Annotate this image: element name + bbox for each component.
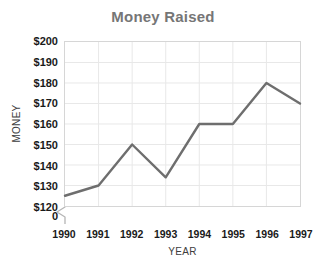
data-series-line — [65, 42, 300, 206]
x-axis-tick-labels: 19901991199219931994199519961997 — [64, 228, 301, 244]
y-tick-label: $130 — [0, 180, 58, 192]
y-tick-label: $180 — [0, 77, 58, 89]
y-tick-label: $160 — [0, 118, 58, 130]
y-axis-zero-label: 0 — [0, 210, 58, 222]
plot-area — [64, 41, 301, 207]
y-tick-label: $150 — [0, 139, 58, 151]
y-tick-label: $140 — [0, 160, 58, 172]
y-tick-label: $200 — [0, 35, 58, 47]
y-axis-tick-labels: $200$190$180$170$160$150$140$130$120 — [0, 41, 58, 207]
x-tick-label: 1997 — [281, 228, 321, 240]
line-chart: Money Raised MONEY $200$190$180$170$160$… — [0, 0, 326, 272]
chart-title: Money Raised — [0, 8, 326, 25]
x-axis-title: YEAR — [64, 246, 301, 257]
y-tick-label: $190 — [0, 56, 58, 68]
y-tick-label: $170 — [0, 97, 58, 109]
